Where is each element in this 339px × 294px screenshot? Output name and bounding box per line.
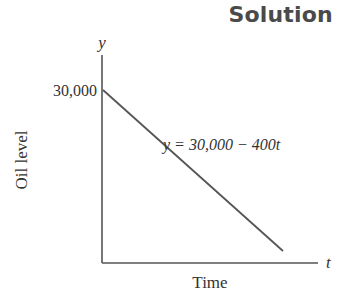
oil-level-chart: y t 30,000 y = 30,000 − 400t Time Oil le… — [0, 0, 339, 294]
y-axis-label: Oil level — [12, 130, 31, 189]
y-tick-30000: 30,000 — [53, 82, 97, 99]
equation-annotation: y = 30,000 − 400t — [161, 136, 281, 154]
oil-level-line — [103, 90, 283, 251]
x-axis-label: Time — [192, 273, 227, 292]
y-axis-symbol: y — [96, 33, 106, 52]
x-axis-symbol: t — [326, 253, 332, 272]
